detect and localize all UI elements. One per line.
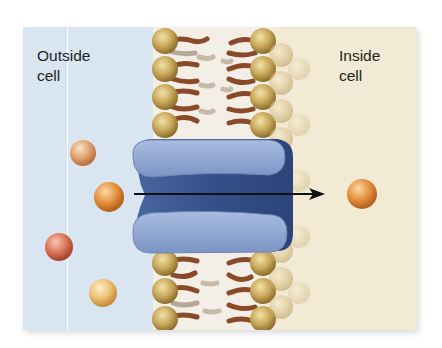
channel-protein xyxy=(133,139,293,253)
solute-inside-1 xyxy=(347,179,377,209)
solute-outside-2 xyxy=(94,182,124,212)
solute-outside-1 xyxy=(70,140,96,166)
inside-cell-label: Inside cell xyxy=(339,46,380,86)
lipid-tails-upper xyxy=(169,39,255,123)
solute-outside-4 xyxy=(89,279,117,307)
membrane-diagram: Outside cell Inside cell xyxy=(23,27,417,330)
solute-outside-3 xyxy=(45,233,73,261)
lipid-tails-lower xyxy=(171,259,255,321)
outside-cell-label: Outside cell xyxy=(37,46,90,86)
